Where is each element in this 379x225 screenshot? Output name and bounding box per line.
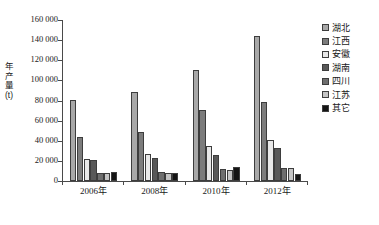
bar	[90, 160, 96, 181]
legend-swatch-icon	[322, 105, 329, 112]
y-tick-label: 80 000	[35, 95, 58, 106]
y-tick-mark	[58, 20, 63, 21]
bar	[220, 169, 226, 181]
legend-label: 湖北	[332, 23, 350, 33]
x-tick-label: 2012年	[247, 186, 307, 197]
bar	[274, 148, 280, 181]
bar	[152, 158, 158, 181]
legend-swatch-icon	[322, 78, 329, 85]
bar	[131, 92, 137, 181]
y-tick: 40 000	[62, 141, 63, 142]
bar	[145, 154, 151, 181]
y-tick-label: 20 000	[35, 155, 58, 166]
legend-item[interactable]: 安徽	[322, 48, 378, 61]
bar	[288, 168, 294, 181]
y-tick: 160 000	[62, 20, 63, 21]
x-tick-label: 2010年	[186, 186, 246, 197]
y-tick-mark	[58, 161, 63, 162]
x-tick-mark	[185, 181, 186, 185]
bar	[261, 102, 267, 181]
y-tick: 140 000	[62, 40, 63, 41]
x-tick-mark	[246, 181, 247, 185]
legend-swatch-icon	[322, 51, 329, 58]
legend-swatch-icon	[322, 64, 329, 71]
bar	[172, 173, 178, 181]
legend-swatch-icon	[322, 91, 329, 98]
bar	[70, 100, 76, 182]
bar	[84, 159, 90, 181]
y-tick-mark	[58, 40, 63, 41]
bar	[138, 132, 144, 181]
y-tick: 20 000	[62, 161, 63, 162]
x-tick-mark	[123, 181, 124, 185]
bar	[97, 173, 103, 181]
bar	[199, 110, 205, 181]
legend-item[interactable]: 四川	[322, 75, 378, 88]
bar	[227, 170, 233, 181]
y-tick-label: 60 000	[35, 115, 58, 126]
y-tick-label: 120 000	[30, 54, 58, 65]
legend-item[interactable]: 湖北	[322, 21, 378, 34]
y-tick-mark	[58, 121, 63, 122]
legend-label: 其它	[332, 103, 350, 113]
y-tick-label: 100 000	[30, 74, 58, 85]
bar	[295, 174, 301, 181]
bar	[158, 172, 164, 181]
y-tick-label: 140 000	[30, 34, 58, 45]
x-tick-label: 2006年	[64, 186, 124, 197]
plot-area: 160 000140 000120 000100 00080 00060 000…	[62, 20, 307, 182]
bar	[267, 140, 273, 181]
legend-item[interactable]: 江苏	[322, 88, 378, 101]
bar	[193, 70, 199, 181]
legend-label: 安徽	[332, 49, 350, 59]
x-tick-mark	[62, 181, 63, 185]
legend-swatch-icon	[322, 24, 329, 31]
legend-item[interactable]: 湖南	[322, 61, 378, 74]
legend-item[interactable]: 江西	[322, 34, 378, 47]
y-tick-mark	[58, 60, 63, 61]
bar	[165, 173, 171, 181]
y-tick-mark	[58, 141, 63, 142]
legend-swatch-icon	[322, 38, 329, 45]
legend-label: 江西	[332, 36, 350, 46]
y-tick-label: 40 000	[35, 135, 58, 146]
y-tick-mark	[58, 80, 63, 81]
bar	[206, 146, 212, 181]
y-tick-mark	[58, 101, 63, 102]
legend-label: 四川	[332, 76, 350, 86]
bar-group	[193, 20, 240, 181]
bar	[111, 172, 117, 181]
bar	[254, 36, 260, 181]
chart-legend: 湖北江西安徽湖南四川江苏其它	[322, 21, 378, 115]
y-tick-label: 160 000	[30, 14, 58, 25]
legend-item[interactable]: 其它	[322, 101, 378, 114]
bar-group	[131, 20, 178, 181]
x-tick-label: 2008年	[125, 186, 185, 197]
y-tick: 100 000	[62, 80, 63, 81]
bar	[213, 155, 219, 181]
bar	[77, 137, 83, 181]
bar	[104, 173, 110, 181]
bar	[281, 168, 287, 181]
y-tick: 80 000	[62, 101, 63, 102]
legend-label: 湖南	[332, 63, 350, 73]
x-tick-mark	[307, 181, 308, 185]
bar-chart: 年产量 (t) 160 000140 000120 000100 00080 0…	[0, 0, 379, 225]
bar	[233, 167, 239, 181]
y-tick: 120 000	[62, 60, 63, 61]
bar-group	[70, 20, 117, 181]
y-axis-title: 年产量 (t)	[2, 62, 16, 100]
bar-group	[254, 20, 301, 181]
legend-label: 江苏	[332, 90, 350, 100]
y-tick-label: 0	[54, 175, 58, 186]
y-tick: 60 000	[62, 121, 63, 122]
